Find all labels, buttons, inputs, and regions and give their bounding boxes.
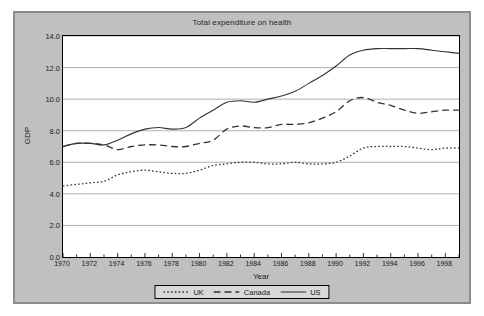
y-axis-tick-label: 4.0 bbox=[30, 189, 60, 198]
x-axis-tick-label: 1990 bbox=[327, 260, 343, 267]
x-axis-tick-label: 1978 bbox=[163, 260, 179, 267]
series-line-uk bbox=[63, 146, 459, 186]
x-axis-tick-label: 1984 bbox=[245, 260, 261, 267]
x-axis-tick-label: 1996 bbox=[409, 260, 425, 267]
gridlines bbox=[63, 36, 459, 225]
x-axis-tick-labels: 1970197219741976197819801982198419861988… bbox=[62, 260, 460, 272]
legend-label: UK bbox=[193, 288, 203, 297]
series-line-us bbox=[63, 49, 459, 147]
x-axis-tick-label: 1994 bbox=[382, 260, 398, 267]
legend-item-us[interactable]: US bbox=[280, 288, 320, 297]
x-axis-title: Year bbox=[62, 272, 460, 281]
y-axis-tick-label: 10.0 bbox=[30, 95, 60, 104]
x-axis-tick-label: 1986 bbox=[273, 260, 289, 267]
y-axis-tick-label: 8.0 bbox=[30, 126, 60, 135]
x-axis-tick-label: 1988 bbox=[300, 260, 316, 267]
chart-legend: UKCanadaUS bbox=[154, 285, 329, 299]
legend-label: US bbox=[310, 288, 320, 297]
x-axis-tick-label: 1972 bbox=[82, 260, 98, 267]
y-axis-tick-label: 6.0 bbox=[30, 158, 60, 167]
legend-item-canada[interactable]: Canada bbox=[214, 288, 270, 297]
plot-area bbox=[62, 35, 460, 258]
series-line-canada bbox=[63, 98, 459, 150]
x-axis-tick-label: 1974 bbox=[109, 260, 125, 267]
y-axis-tick-label: 2.0 bbox=[30, 221, 60, 230]
plot-svg bbox=[63, 36, 459, 257]
x-axis-tick-label: 1976 bbox=[136, 260, 152, 267]
legend-swatch-canada bbox=[214, 288, 240, 296]
y-axis-tick-labels: 14.012.010.08.06.04.02.00.0 bbox=[27, 35, 60, 258]
series-lines bbox=[63, 49, 459, 186]
x-axis-tick-label: 1980 bbox=[191, 260, 207, 267]
chart-title: Total expenditure on health bbox=[15, 18, 469, 27]
x-axis-tick-label: 1998 bbox=[437, 260, 453, 267]
legend-item-uk[interactable]: UK bbox=[163, 288, 203, 297]
x-axis-tick-label: 1970 bbox=[54, 260, 70, 267]
chart-frame: Total expenditure on health GDP 14.012.0… bbox=[13, 11, 471, 304]
y-axis-tick-label: 12.0 bbox=[30, 63, 60, 72]
y-axis-tick-label: 14.0 bbox=[30, 32, 60, 41]
x-axis-tick-marks bbox=[63, 253, 459, 257]
x-axis-tick-label: 1992 bbox=[355, 260, 371, 267]
x-axis-tick-label: 1982 bbox=[218, 260, 234, 267]
legend-swatch-us bbox=[280, 288, 306, 296]
legend-label: Canada bbox=[244, 288, 270, 297]
legend-swatch-uk bbox=[163, 288, 189, 296]
